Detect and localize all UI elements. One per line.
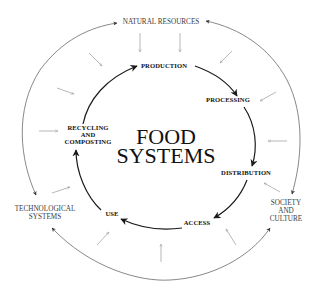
arrow-recycling-to-production xyxy=(83,66,137,124)
label-natural-resources: NATURAL RESOURCES xyxy=(123,18,200,26)
arrow-access-to-use xyxy=(121,219,182,229)
svg-text:SYSTEMS: SYSTEMS xyxy=(116,143,215,168)
stage-use: USE xyxy=(105,210,119,217)
svg-text:AND: AND xyxy=(81,131,96,138)
svg-text:CULTURE: CULTURE xyxy=(270,215,303,223)
svg-text:TECHNOLOGICAL: TECHNOLOGICAL xyxy=(15,205,76,213)
arrow-use-to-recycling xyxy=(76,150,101,210)
arrow-processing-to-distribution xyxy=(244,107,255,166)
label-society-and-culture: SOCIETY AND CULTURE xyxy=(270,199,303,223)
svg-text:SOCIETY: SOCIETY xyxy=(271,199,302,207)
label-technological-systems: TECHNOLOGICAL SYSTEMS xyxy=(15,205,76,221)
center-title: FOOD SYSTEMS xyxy=(116,124,215,168)
ring-arc-left xyxy=(22,23,117,195)
stage-distribution: DISTRIBUTION xyxy=(221,169,271,176)
svg-text:AND: AND xyxy=(278,207,294,215)
stage-production: PRODUCTION xyxy=(141,62,187,69)
arrow-production-to-processing xyxy=(195,66,237,96)
stage-recycling-and-composting: RECYCLING AND COMPOSTING xyxy=(65,124,112,145)
svg-text:SYSTEMS: SYSTEMS xyxy=(29,213,61,221)
svg-text:RECYCLING: RECYCLING xyxy=(67,124,108,131)
stage-access: ACCESS xyxy=(184,219,211,226)
arrow-distribution-to-access xyxy=(214,180,247,218)
svg-text:COMPOSTING: COMPOSTING xyxy=(65,138,112,145)
food-systems-diagram: NATURAL RESOURCES TECHNOLOGICAL SYSTEMS … xyxy=(0,0,318,293)
stage-processing: PROCESSING xyxy=(206,96,250,103)
